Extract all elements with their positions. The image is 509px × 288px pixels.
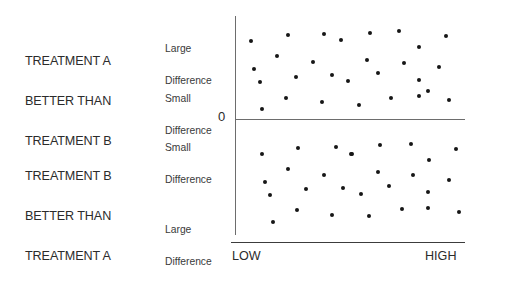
y-axis-label-line: Large (165, 225, 212, 236)
scatter-point (426, 190, 430, 194)
scatter-point (359, 192, 363, 196)
scatter-point (346, 79, 350, 83)
y-axis-zero-label: 0 (218, 110, 225, 123)
scatter-point (339, 38, 343, 42)
scatter-point (249, 39, 253, 43)
scatter-point (400, 207, 404, 211)
scatter-point (411, 173, 415, 177)
scatter-point (365, 58, 369, 62)
y-axis-label-small-difference-bottom: Small Difference (165, 121, 212, 207)
scatter-point (357, 103, 361, 107)
scatter-point (409, 142, 413, 146)
scatter-point (427, 158, 431, 162)
scatter-point (368, 31, 372, 35)
scatter-point (275, 54, 279, 58)
scatter-point (341, 186, 345, 190)
scatter-point (286, 33, 290, 37)
scatter-point (376, 170, 380, 174)
scatter-point (284, 96, 288, 100)
scatter-point (444, 34, 448, 38)
scatter-point (447, 178, 451, 182)
caption-line: BETTER THAN (25, 95, 112, 108)
y-axis-label-line: Difference (165, 257, 212, 268)
scatter-point (330, 213, 334, 217)
y-axis-line (235, 16, 236, 235)
caption-treatment-b-better: TREATMENT B BETTER THAN TREATMENT A (25, 144, 112, 288)
scatter-point (417, 45, 421, 49)
scatter-point (260, 107, 264, 111)
scatter-point (322, 173, 326, 177)
y-axis-label-line: Difference (165, 175, 212, 186)
scatter-point (320, 100, 324, 104)
scatter-point (397, 29, 401, 33)
scatter-point (402, 61, 406, 65)
scatter-point (389, 96, 393, 100)
x-axis-label-low: LOW (232, 250, 261, 263)
scatter-point (286, 167, 290, 171)
scatter-point (296, 146, 300, 150)
scatter-point (417, 94, 421, 98)
scatter-point (311, 60, 315, 64)
scatter-point (349, 152, 353, 156)
scatter-point (295, 208, 299, 212)
caption-line: TREATMENT A (25, 250, 112, 263)
x-axis-label-high: HIGH (425, 250, 456, 263)
scatter-point (417, 78, 421, 82)
caption-line: TREATMENT B (25, 170, 112, 183)
x-axis-line (231, 242, 465, 243)
scatter-point (426, 206, 430, 210)
scatter-point (454, 147, 458, 151)
scatter-point (437, 65, 441, 69)
scatter-point (367, 214, 371, 218)
zero-reference-line (235, 119, 465, 120)
scatter-point (330, 73, 334, 77)
y-axis-label-line: Large (165, 44, 212, 55)
scatter-point (260, 152, 264, 156)
scatter-point (258, 80, 262, 84)
scatter-point (426, 89, 430, 93)
scatter-point (378, 143, 382, 147)
caption-line: TREATMENT A (25, 55, 112, 68)
scatter-point (457, 210, 461, 214)
y-axis-label-line: Small (165, 143, 212, 154)
scatter-point (263, 180, 267, 184)
scatter-point (447, 98, 451, 102)
y-axis-label-large-difference-bottom: Large Difference (165, 203, 212, 288)
scatter-point (252, 67, 256, 71)
scatter-point (387, 184, 391, 188)
scatter-point (268, 193, 272, 197)
scatter-point (271, 220, 275, 224)
scatter-point (376, 71, 380, 75)
scatter-point (294, 75, 298, 79)
scatter-point (350, 152, 354, 156)
scatter-point (322, 32, 326, 36)
y-axis-label-line: Small (165, 94, 212, 105)
scatter-point (304, 187, 308, 191)
scatter-point (334, 145, 338, 149)
caption-line: BETTER THAN (25, 210, 112, 223)
figure-scatter-treatment-comparison: TREATMENT A BETTER THAN TREATMENT B TREA… (0, 0, 509, 288)
